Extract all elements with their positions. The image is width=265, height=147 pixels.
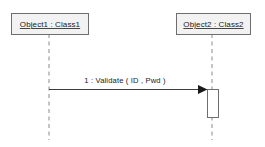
message-label-validate: 1 : Validate ( ID , Pwd ) — [84, 76, 166, 85]
object-label-object2: Object2 : Class2 — [183, 20, 244, 29]
sequence-diagram-canvas: Object1 : Class1 Object2 : Class2 1 : Va… — [0, 0, 265, 147]
object-label-object1: Object1 : Class1 — [20, 20, 81, 29]
message-arrowhead-icon — [198, 85, 208, 94]
sequence-diagram-svg: Object1 : Class1 Object2 : Class2 1 : Va… — [0, 0, 265, 147]
activation-bar-object2[interactable] — [208, 90, 219, 118]
